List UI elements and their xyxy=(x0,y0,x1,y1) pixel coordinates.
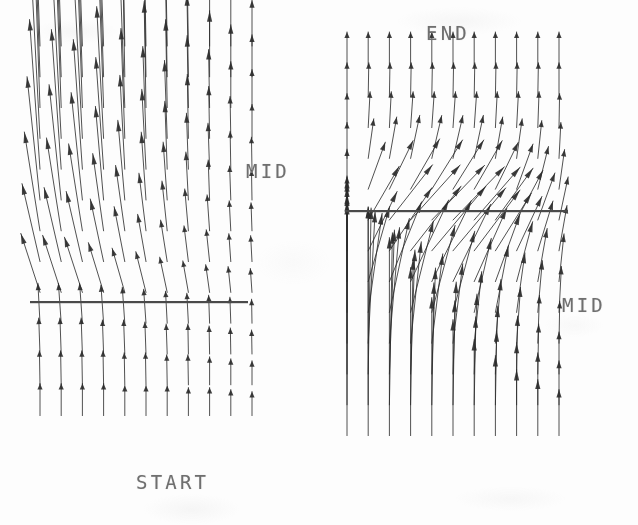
field-arrow xyxy=(68,144,83,231)
field-arrow xyxy=(159,220,167,261)
start-panel-mid-reference-line xyxy=(30,301,248,303)
field-arrow xyxy=(228,131,233,169)
field-arrow xyxy=(121,320,126,354)
field-arrow xyxy=(164,355,169,385)
start-panel xyxy=(0,0,319,525)
field-arrow xyxy=(143,353,148,385)
field-arrow xyxy=(431,92,436,128)
field-arrow xyxy=(185,355,190,385)
field-arrow xyxy=(206,295,211,323)
field-arrow xyxy=(249,361,254,385)
field-arrow xyxy=(387,238,392,436)
field-arrow xyxy=(538,147,549,190)
field-arrow xyxy=(536,63,541,97)
field-arrow xyxy=(79,351,84,385)
field-arrow xyxy=(535,380,540,436)
field-arrow xyxy=(389,233,394,405)
field-arrow xyxy=(474,92,479,128)
field-arrow xyxy=(227,201,232,231)
field-arrow xyxy=(538,201,553,251)
field-arrow xyxy=(101,384,106,416)
field-arrow xyxy=(207,11,212,77)
field-arrow xyxy=(182,226,188,262)
field-arrow xyxy=(181,261,188,293)
field-arrow xyxy=(207,388,212,416)
field-arrow xyxy=(204,230,209,262)
field-arrow xyxy=(537,295,542,343)
field-arrow xyxy=(368,142,385,189)
field-arrow xyxy=(411,139,440,189)
field-arrow xyxy=(79,318,84,354)
field-arrow xyxy=(112,248,125,292)
field-arrow xyxy=(163,291,168,323)
field-arrow xyxy=(387,32,392,66)
field-arrow xyxy=(92,154,104,231)
field-arrow xyxy=(344,63,349,97)
field-arrow xyxy=(249,203,254,231)
field-arrow xyxy=(22,184,40,262)
field-arrow xyxy=(37,351,42,385)
field-arrow xyxy=(122,353,127,385)
field-arrow xyxy=(517,196,542,250)
field-arrow xyxy=(556,390,561,436)
field-arrow xyxy=(115,165,125,230)
field-arrow xyxy=(368,119,375,159)
field-arrow xyxy=(228,328,233,354)
field-arrow xyxy=(538,121,544,159)
end-label: END xyxy=(426,22,470,44)
field-arrow xyxy=(472,32,477,66)
field-arrow xyxy=(495,246,508,313)
field-arrow xyxy=(58,318,63,354)
field-arrow xyxy=(493,32,498,66)
field-arrow xyxy=(36,283,41,323)
field-arrow xyxy=(556,32,561,66)
field-arrow xyxy=(185,293,190,323)
field-arrow xyxy=(432,165,485,220)
field-arrow xyxy=(453,231,475,312)
field-arrow xyxy=(21,233,40,292)
field-arrow xyxy=(165,386,170,416)
field-arrow xyxy=(116,120,125,200)
field-arrow xyxy=(99,285,104,323)
field-arrow xyxy=(226,267,231,293)
field-arrow xyxy=(344,178,349,436)
start-label: START xyxy=(136,471,209,493)
field-arrow xyxy=(452,92,457,128)
mid-label-right: MID xyxy=(562,294,606,316)
field-arrow xyxy=(410,92,415,128)
field-arrow xyxy=(495,117,504,158)
field-arrow xyxy=(141,289,146,323)
end-panel-mid-reference-line xyxy=(345,210,568,212)
field-arrow xyxy=(366,32,371,66)
field-arrow xyxy=(204,265,210,293)
field-arrow xyxy=(58,351,63,385)
field-arrow xyxy=(388,92,393,128)
field-arrow xyxy=(249,104,254,138)
field-arrow xyxy=(536,92,541,128)
field-arrow xyxy=(248,268,253,292)
end-panel-quiver-plot xyxy=(319,0,638,525)
field-arrow xyxy=(207,357,212,385)
field-arrow xyxy=(228,390,233,416)
field-arrow xyxy=(389,117,398,158)
field-arrow xyxy=(56,283,61,323)
field-arrow xyxy=(535,32,540,66)
field-arrow xyxy=(100,320,105,354)
field-arrow xyxy=(249,330,254,354)
field-arrow xyxy=(556,63,561,97)
field-arrow xyxy=(90,199,104,262)
field-arrow xyxy=(411,115,421,158)
field-arrow xyxy=(122,386,127,416)
field-arrow xyxy=(367,92,372,128)
field-arrow xyxy=(389,141,413,190)
field-arrow xyxy=(514,32,519,66)
field-arrow xyxy=(368,166,399,220)
field-arrow xyxy=(59,384,64,416)
field-arrow xyxy=(411,186,461,251)
field-arrow xyxy=(559,234,566,282)
end-panel xyxy=(319,0,638,525)
field-arrow xyxy=(205,195,210,231)
field-arrow xyxy=(142,322,147,354)
field-arrow xyxy=(515,316,520,374)
field-arrow xyxy=(227,166,232,200)
